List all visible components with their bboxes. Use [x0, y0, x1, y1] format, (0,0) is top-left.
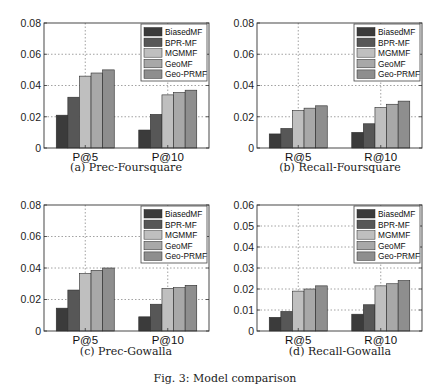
bar-biasedmf [139, 317, 151, 331]
legend-label: GeoMF [378, 241, 406, 251]
legend-swatch [357, 28, 375, 37]
chart-panel-recall-foursquare: 00.020.040.060.08R@5R@10BiasedMFBPR-MFMG… [222, 0, 443, 190]
legend-swatch [357, 252, 375, 261]
legend-label: Geo-PRMF [378, 251, 420, 261]
legend-label: MGMMF [378, 48, 410, 58]
chart-panel-prec-gowalla: 00.020.040.060.08P@5P@10BiasedMFBPR-MFMG… [0, 190, 222, 365]
y-tick-label: 0 [248, 142, 254, 154]
legend-swatch [144, 59, 162, 68]
y-tick-label: 0.06 [234, 199, 255, 211]
bar-biasedmf [56, 308, 68, 331]
y-tick-label: 0.04 [234, 241, 255, 253]
y-tick-label: 0.04 [21, 79, 42, 91]
y-tick-label: 0.05 [234, 220, 255, 232]
legend-label: MGMMF [165, 230, 197, 240]
legend-swatch [144, 28, 162, 37]
bar-bprmf [363, 124, 375, 148]
subcaption: (a) Prec-Foursquare [70, 161, 182, 174]
bar-biasedmf [269, 317, 281, 331]
y-tick-label: 0.02 [21, 111, 42, 123]
legend-label: BiasedMF [378, 209, 415, 219]
legend-label: BiasedMF [165, 27, 202, 37]
y-tick-label: 0.08 [234, 17, 255, 29]
legend-label: MGMMF [165, 48, 197, 58]
bar-geoprmf [316, 286, 328, 331]
bar-bprmf [68, 97, 80, 148]
y-tick-label: 0.08 [21, 199, 42, 211]
legend-label: Geo-PRMF [165, 251, 207, 261]
legend-swatch [357, 70, 375, 79]
y-tick-label: 0 [248, 325, 254, 337]
bar-bprmf [363, 305, 375, 331]
bar-bprmf [150, 304, 162, 331]
bar-geoprmf [398, 281, 410, 331]
y-tick-label: 0.04 [21, 262, 42, 274]
bar-biasedmf [269, 134, 281, 148]
bar-geoprmf [103, 268, 115, 331]
legend-swatch [144, 220, 162, 229]
legend-swatch [357, 38, 375, 47]
bar-mgmmf [292, 111, 304, 149]
legend-label: BPR-MF [378, 38, 410, 48]
y-tick-label: 0.02 [234, 283, 255, 295]
bar-mgmmf [292, 291, 304, 331]
bar-chart: 00.020.040.060.08P@5P@10BiasedMFBPR-MFMG… [0, 190, 222, 365]
bar-geomf [91, 270, 103, 331]
bar-geoprmf [185, 285, 197, 331]
legend-swatch [144, 210, 162, 219]
bar-bprmf [68, 290, 80, 331]
chart-panel-recall-gowalla: 00.010.020.030.040.050.06R@5R@10BiasedMF… [222, 190, 443, 365]
legend-swatch [144, 38, 162, 47]
bar-mgmmf [79, 274, 91, 331]
legend-label: BPR-MF [378, 220, 410, 230]
legend-swatch [144, 70, 162, 79]
subcaption: (b) Recall-Foursquare [279, 161, 400, 174]
bar-bprmf [281, 128, 293, 148]
y-tick-label: 0.03 [234, 262, 255, 274]
y-tick-label: 0.06 [234, 48, 255, 60]
legend: BiasedMFBPR-MFMGMMFGeoMFGeo-PRMF [354, 24, 420, 81]
bar-mgmmf [375, 107, 387, 148]
y-tick-label: 0.06 [21, 48, 42, 60]
y-tick-label: 0 [35, 142, 41, 154]
bar-geomf [304, 108, 316, 148]
bar-geoprmf [316, 106, 328, 148]
bar-geoprmf [103, 70, 115, 148]
bar-geomf [174, 288, 186, 331]
y-tick-label: 0.06 [21, 230, 42, 242]
y-tick-label: 0.08 [21, 17, 42, 29]
legend-label: GeoMF [378, 59, 406, 69]
bar-mgmmf [375, 286, 387, 331]
legend-label: GeoMF [165, 59, 193, 69]
bar-geoprmf [398, 101, 410, 148]
legend-swatch [357, 241, 375, 250]
legend-swatch [144, 49, 162, 58]
legend: BiasedMFBPR-MFMGMMFGeoMFGeo-PRMF [141, 206, 207, 263]
legend-label: Geo-PRMF [165, 69, 207, 79]
bar-geomf [91, 73, 103, 148]
bar-geoprmf [185, 90, 197, 148]
legend-swatch [357, 220, 375, 229]
bar-mgmmf [79, 76, 91, 148]
bar-mgmmf [162, 288, 174, 331]
y-tick-label: 0.04 [234, 79, 255, 91]
bar-geomf [387, 104, 399, 148]
bar-biasedmf [352, 132, 364, 148]
legend-swatch [144, 241, 162, 250]
subcaption: (c) Prec-Gowalla [80, 345, 172, 358]
legend-swatch [357, 231, 375, 240]
bar-chart: 00.010.020.030.040.050.06R@5R@10BiasedMF… [222, 190, 443, 365]
chart-panel-prec-foursquare: 00.020.040.060.08P@5P@10BiasedMFBPR-MFMG… [0, 0, 222, 190]
legend-swatch [357, 59, 375, 68]
bar-geomf [174, 93, 186, 148]
bar-geomf [304, 289, 316, 331]
bar-geomf [387, 284, 399, 331]
figure-caption: Fig. 3: Model comparison [154, 372, 297, 385]
y-tick-label: 0.01 [234, 304, 255, 316]
bar-mgmmf [162, 95, 174, 148]
legend-label: BPR-MF [165, 38, 197, 48]
subcaption: (d) Recall-Gowalla [289, 345, 391, 358]
legend: BiasedMFBPR-MFMGMMFGeoMFGeo-PRMF [354, 206, 420, 263]
bar-bprmf [281, 311, 293, 331]
bar-biasedmf [352, 314, 364, 331]
